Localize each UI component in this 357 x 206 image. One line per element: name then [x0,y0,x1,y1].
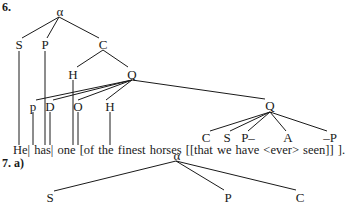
example-6-number: 6. [2,1,11,13]
node-q-h: H [105,100,114,113]
node-q-p: p [30,100,37,113]
node-h: H [68,68,77,81]
node-alpha: α [57,5,64,18]
node-inner-p1: P– [241,131,255,144]
node-inner-p2: –P [323,131,337,144]
node-7-s: S [46,191,53,204]
node-inner-a: A [283,131,292,144]
node-inner-s: S [223,131,230,144]
node-inner-q: Q [265,99,274,112]
node-q-o: O [73,100,82,113]
node-q-d: D [45,100,54,113]
node-inner-c: C [202,131,211,144]
node-p: P [41,38,48,51]
example-7-number: 7. a) [2,157,24,169]
node-c: C [99,38,108,51]
node-7-p: P [224,191,231,204]
node-s: S [15,38,22,51]
node-7-c: C [296,191,305,204]
node-q: Q [127,68,136,81]
node-7-alpha: α [174,149,181,162]
